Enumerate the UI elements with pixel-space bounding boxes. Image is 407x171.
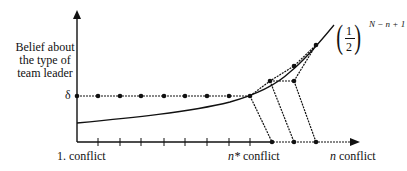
formula-exponent: N − n + 1: [369, 19, 405, 29]
dotted-connectors: [250, 45, 316, 142]
delta-label: δ: [65, 89, 71, 102]
belief-curve: [77, 25, 334, 123]
right-paren-icon: ): [354, 18, 361, 56]
n-text: conflict: [336, 149, 376, 163]
x-label-first-conflict: 1. conflict: [57, 150, 106, 163]
curve-chord-dotted: [250, 45, 316, 96]
y-axis-arrow-icon: [73, 10, 81, 19]
x-axis-arrow-icon: [350, 138, 360, 146]
fraction-one-half: ( 1 2 ) N − n + 1: [337, 22, 365, 56]
nstar-text: conflict: [240, 149, 280, 163]
nstar-variable: n*: [228, 149, 240, 163]
fraction-numerator: 1: [346, 24, 352, 39]
x-label-n-conflict: n conflict: [330, 150, 376, 163]
x-label-nstar-conflict: n* conflict: [228, 150, 280, 163]
y-axis-label-line-3: team leader: [12, 67, 78, 80]
curve-formula: ( 1 2 ) N − n + 1: [337, 22, 365, 56]
left-paren-icon: (: [336, 18, 343, 56]
fraction-denominator: 2: [346, 40, 352, 55]
y-axis-label: Belief about the type of team leader: [12, 41, 78, 80]
